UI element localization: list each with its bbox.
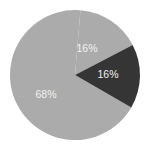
pie-slices	[10, 10, 140, 140]
pie-chart: 68%16%16%	[0, 0, 150, 150]
pie-slice-label: 16%	[97, 68, 118, 80]
pie-slice-label: 16%	[76, 42, 97, 54]
pie-slice-label: 68%	[35, 88, 56, 100]
